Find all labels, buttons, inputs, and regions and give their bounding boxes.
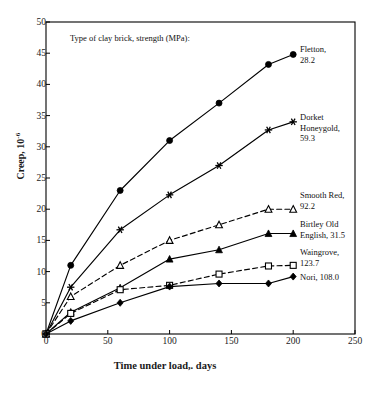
y-axis-tick-label: 50 — [20, 17, 46, 27]
legend-entry-line: 59.3 — [300, 133, 340, 144]
x-axis-tick-label: 50 — [88, 336, 128, 346]
y-axis-tick-label: 5 — [20, 298, 46, 308]
legend-entry-line: Honeygold, — [300, 123, 340, 134]
legend-entry-line: Waingrove, — [300, 247, 339, 258]
y-axis-tick-label: 45 — [20, 48, 46, 58]
data-point-marker — [216, 100, 222, 106]
legend-entry-line: 123.7 — [300, 258, 339, 269]
legend-entry-line: Birtley Old — [300, 219, 345, 230]
legend-entry-3: Smooth Red,92.2 — [300, 190, 344, 211]
legend-entry-line: 92.2 — [300, 201, 344, 212]
x-axis-tick-label: 250 — [335, 336, 374, 346]
legend-entry-line: Nori, 108.0 — [300, 272, 339, 283]
x-axis-tick-label: 100 — [150, 336, 190, 346]
data-point-marker — [216, 271, 222, 277]
y-axis-tick-label: 15 — [20, 235, 46, 245]
data-point-marker — [290, 51, 296, 57]
legend-entry-line: English, 31.5 — [300, 230, 345, 241]
legend-entry-2: DorketHoneygold,59.3 — [300, 112, 340, 144]
x-axis-tick-label: 200 — [273, 336, 313, 346]
data-point-marker — [68, 262, 74, 268]
data-point-marker — [117, 287, 123, 293]
plot-frame — [46, 22, 355, 334]
x-axis-title: Time under load,. days — [0, 360, 330, 371]
x-axis-tick-label: 150 — [211, 336, 251, 346]
legend-entry-line: 28.2 — [300, 55, 326, 66]
legend-entry-line: Dorket — [300, 112, 340, 123]
y-axis-title: Creep, 10-6 — [14, 96, 26, 216]
legend-entry-line: Smooth Red, — [300, 190, 344, 201]
data-point-marker — [265, 61, 271, 67]
chart-title: Type of clay brick, strength (MPa): — [70, 33, 190, 43]
data-point-marker — [117, 187, 123, 193]
y-axis-title-text: Creep, 10 — [15, 139, 26, 180]
legend-entry-5: Waingrove,123.7 — [300, 247, 339, 268]
legend-entry-1: Fletton,28.2 — [300, 44, 326, 65]
legend-entry-4: Birtley OldEnglish, 31.5 — [300, 219, 345, 240]
data-point-marker — [68, 310, 74, 316]
y-axis-title-exponent: -6 — [14, 133, 22, 139]
creep-vs-time-chart: 05101520253035404550 050100150200250 Cre… — [0, 0, 374, 393]
data-point-marker — [167, 138, 173, 144]
data-point-marker — [290, 262, 296, 268]
legend-entry-6: Nori, 108.0 — [300, 272, 339, 283]
y-axis-tick-label: 10 — [20, 267, 46, 277]
y-axis-tick-label: 40 — [20, 79, 46, 89]
x-axis-tick-labels: 050100150200250 — [0, 336, 374, 350]
legend-entry-line: Fletton, — [300, 44, 326, 55]
x-axis-tick-label: 0 — [26, 336, 66, 346]
data-point-marker — [265, 263, 271, 269]
